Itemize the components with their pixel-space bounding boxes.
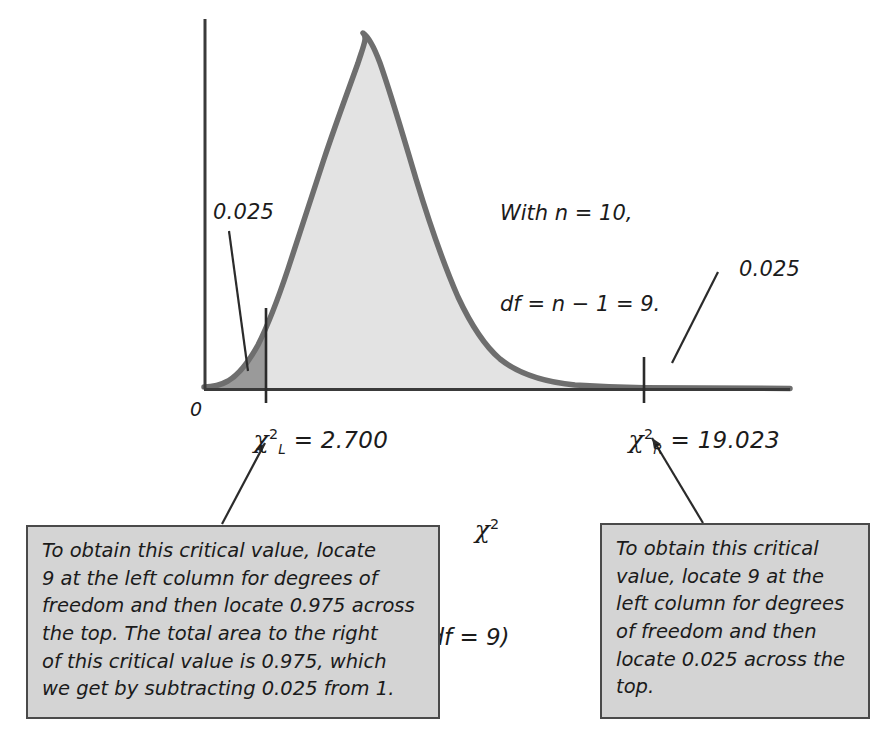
chi-square-distribution-figure: 0.025 0.025 0 χ2L = 2.700 χ2R = 19.023 χ…: [0, 0, 889, 748]
callout-right-line-6: top.: [616, 673, 856, 701]
chi-glyph-right: χ: [628, 425, 643, 454]
central-region: [204, 33, 790, 388]
chi-exponent-right: 2: [644, 426, 653, 442]
callout-right-line-2: value, locate 9 at the: [616, 563, 856, 591]
note-df-value: − 1 = 9.: [565, 292, 660, 316]
chi-exponent-axis: 2: [490, 517, 499, 533]
note-line-1: With n = 10,: [500, 198, 660, 228]
callout-right-line-3: left column for degrees: [616, 590, 856, 618]
note-with-prefix: With: [500, 201, 555, 225]
note-n-variable: n: [555, 201, 568, 225]
left-critical-value-callout: To obtain this critical value, locate 9 …: [26, 525, 440, 719]
callout-left-line-2: 9 at the left column for degrees of: [42, 565, 426, 593]
note-line-2: df = n − 1 = 9.: [500, 289, 660, 319]
origin-label: 0: [190, 400, 202, 419]
right-critical-value-text: = 19.023: [663, 427, 780, 453]
callout-right-line-4: of freedom and then: [616, 618, 856, 646]
left-critical-value-text: = 2.700: [286, 427, 388, 453]
callout-right-line-1: To obtain this critical: [616, 535, 856, 563]
chi-subscript-right: R: [653, 442, 663, 457]
callout-left-line-3: freedom and then locate 0.975 across: [42, 592, 426, 620]
chi-glyph-axis: χ: [475, 515, 490, 544]
callout-left-line-4: the top. The total area to the right: [42, 620, 426, 648]
note-df-symbol: df: [500, 292, 521, 316]
callout-left-line-1: To obtain this critical value, locate: [42, 537, 426, 565]
note-n-value: = 10,: [568, 201, 632, 225]
callout-left-line-5: of this critical value is 0.975, which: [42, 648, 426, 676]
left-tail-leader-line: [229, 231, 248, 371]
chi-exponent-left: 2: [269, 426, 278, 442]
callout-right-line-5: locate 0.025 across the: [616, 646, 856, 674]
note-df-equals: =: [521, 292, 552, 316]
callout-left-line-6: we get by subtracting 0.025 from 1.: [42, 675, 426, 703]
right-tail-area-label: 0.025: [739, 259, 800, 280]
chi-glyph-left: χ: [253, 425, 268, 454]
sample-size-note: With n = 10, df = n − 1 = 9.: [500, 137, 660, 381]
right-tail-leader-line: [672, 272, 718, 363]
left-tail-area-label: 0.025: [213, 202, 274, 223]
chi-subscript-left: L: [278, 442, 286, 457]
right-critical-value-label: χ2R = 19.023: [598, 404, 780, 479]
left-critical-value-label: χ2L = 2.700: [223, 404, 388, 479]
right-critical-value-callout: To obtain this critical value, locate 9 …: [600, 523, 870, 719]
note-n-variable-2: n: [552, 292, 565, 316]
